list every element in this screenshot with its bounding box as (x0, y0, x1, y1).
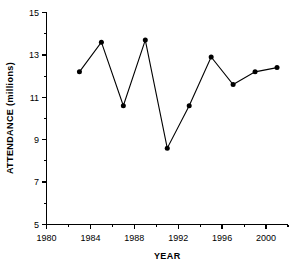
data-point-marker (275, 65, 280, 70)
data-point-marker (253, 69, 258, 74)
series-line-1 (79, 40, 277, 148)
y-axis-title: ATTENDANCE (millions) (5, 62, 15, 174)
x-axis-tick-label: 1984 (80, 233, 100, 243)
data-point-marker (143, 38, 148, 43)
data-point-marker (187, 103, 192, 108)
data-point-marker (77, 69, 82, 74)
data-point-marker (121, 103, 126, 108)
attendance-line-chart: 579111315198019841988199219962000YEARATT… (0, 0, 293, 265)
x-axis-tick-label: 1988 (124, 233, 144, 243)
data-point-marker (99, 40, 104, 45)
y-axis-tick-label: 9 (34, 135, 39, 145)
x-axis-tick-label: 1980 (36, 233, 56, 243)
data-point-marker (231, 82, 236, 87)
x-axis-tick-label: 1996 (212, 233, 232, 243)
y-axis-tick-label: 7 (34, 177, 39, 187)
y-axis-tick-label: 15 (29, 8, 39, 18)
data-point-marker (209, 55, 214, 60)
x-axis-title: YEAR (154, 251, 181, 261)
y-axis-tick-label: 13 (29, 50, 39, 60)
y-axis-tick-label: 5 (34, 220, 39, 230)
x-axis-tick-label: 1992 (168, 233, 188, 243)
x-axis-tick-label: 2000 (256, 233, 276, 243)
y-axis-tick-label: 11 (30, 93, 39, 103)
data-point-marker (165, 146, 170, 151)
chart-canvas: 579111315198019841988199219962000YEARATT… (0, 0, 293, 265)
